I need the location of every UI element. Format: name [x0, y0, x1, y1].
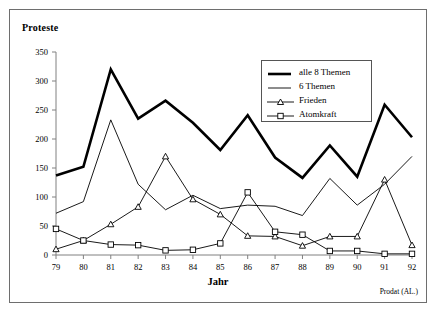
marker-triangle [135, 204, 141, 210]
legend-item-6-themen[interactable]: 6 Themen [262, 79, 371, 93]
x-tick-label: 91 [373, 262, 397, 272]
x-tick-label: 80 [71, 262, 95, 272]
y-tick-label: 200 [14, 134, 48, 144]
legend-swatch-square-icon [267, 108, 294, 120]
x-tick-label: 88 [290, 262, 314, 272]
x-tick-label: 84 [181, 262, 205, 272]
x-tick-label: 82 [126, 262, 150, 272]
y-tick-label: 150 [14, 163, 48, 173]
marker-square [382, 251, 387, 256]
x-tick-label: 86 [236, 262, 260, 272]
y-tick-label: 250 [14, 105, 48, 115]
marker-square [272, 229, 277, 234]
source-note: Prodat (AL.) [380, 287, 418, 296]
marker-square [53, 226, 58, 231]
marker-square [327, 248, 332, 253]
legend-item-frieden[interactable]: Frieden [262, 93, 371, 107]
y-axis-title: Proteste [22, 22, 58, 33]
marker-square [355, 248, 360, 253]
chart-legend: alle 8 Themen6 ThemenFriedenAtomkraft [261, 60, 372, 122]
marker-square [218, 241, 223, 246]
x-tick-label: 89 [318, 262, 342, 272]
y-tick-label: 50 [14, 221, 48, 231]
chart-figure: Proteste 050100150200250300350 798081828… [0, 0, 436, 313]
y-tick-label: 350 [14, 47, 48, 57]
legend-label: Atomkraft [299, 109, 337, 119]
y-tick-label: 100 [14, 192, 48, 202]
marker-triangle [217, 211, 223, 217]
y-tick-label: 300 [14, 76, 48, 86]
legend-label: alle 8 Themen [299, 67, 350, 77]
x-tick-label: 85 [208, 262, 232, 272]
marker-square [163, 248, 168, 253]
marker-square [300, 232, 305, 237]
marker-triangle [382, 177, 388, 183]
marker-square [190, 247, 195, 252]
marker-square [108, 242, 113, 247]
legend-label: Frieden [299, 95, 327, 105]
x-tick-label: 92 [400, 262, 424, 272]
marker-triangle [108, 221, 114, 227]
x-tick-label: 83 [154, 262, 178, 272]
marker-square [245, 190, 250, 195]
legend-item-alle-8-themen[interactable]: alle 8 Themen [262, 65, 371, 79]
marker-square [409, 251, 414, 256]
legend-swatch-none-icon [267, 66, 294, 78]
legend-label: 6 Themen [299, 81, 335, 91]
x-tick-label: 79 [44, 262, 68, 272]
x-tick-label: 87 [263, 262, 287, 272]
x-tick-label: 90 [345, 262, 369, 272]
legend-swatch-triangle-icon [267, 94, 294, 106]
legend-swatch-none-icon [267, 80, 294, 92]
x-tick-label: 81 [99, 262, 123, 272]
marker-square [81, 238, 86, 243]
marker-triangle [162, 153, 168, 159]
y-tick-label: 0 [14, 250, 48, 260]
marker-triangle [190, 196, 196, 202]
legend-item-atomkraft[interactable]: Atomkraft [262, 107, 371, 121]
marker-square [135, 242, 140, 247]
x-axis-title: Jahr [0, 276, 436, 287]
